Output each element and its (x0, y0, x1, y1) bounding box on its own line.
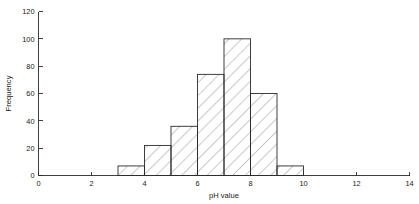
histogram-fill (118, 39, 304, 176)
y-tick-label: 40 (26, 117, 34, 126)
x-tick-label: 4 (142, 179, 146, 188)
x-tick-label: 10 (299, 179, 307, 188)
x-tick-label: 8 (248, 179, 252, 188)
y-axis-ticks: 020406080100120 (22, 7, 42, 180)
y-tick-label: 0 (30, 171, 34, 180)
x-tick-label: 6 (195, 179, 199, 188)
y-tick-label: 100 (22, 35, 34, 44)
bars-group (118, 39, 304, 176)
plot-area: 02468101214 020406080100120 pH value Fre… (0, 0, 419, 204)
x-tick-label: 2 (89, 179, 93, 188)
y-axis-title: Frequency (4, 75, 13, 111)
y-tick-label: 20 (26, 144, 34, 153)
x-tick-label: 12 (352, 179, 360, 188)
histogram-chart: 02468101214 020406080100120 pH value Fre… (0, 0, 419, 204)
y-tick-label: 60 (26, 89, 34, 98)
y-tick-label: 80 (26, 62, 34, 71)
x-tick-label: 0 (36, 179, 40, 188)
y-tick-label: 120 (22, 7, 34, 16)
x-tick-label: 14 (405, 179, 413, 188)
x-axis-title: pH value (209, 191, 239, 200)
